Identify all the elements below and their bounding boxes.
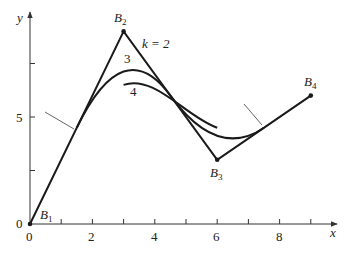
control-point-b2 xyxy=(121,29,126,34)
label-k2: k = 2 xyxy=(142,36,170,51)
x-axis-label: x xyxy=(329,225,336,240)
control-point-b3 xyxy=(215,158,220,163)
curve-k3 xyxy=(77,70,264,138)
b-spline-diagram: 0 2 4 6 8 0 5 x y B1 B2 B3 B4 k = 2 3 4 xyxy=(0,0,355,253)
label-b2: B2 xyxy=(114,10,126,27)
control-point-b4 xyxy=(309,93,314,98)
y-axis-label: y xyxy=(15,10,23,25)
label-b3: B3 xyxy=(210,165,223,182)
curve-k4 xyxy=(124,83,218,128)
label-b1: B1 xyxy=(40,207,52,224)
y-tick-label-5: 5 xyxy=(16,110,23,125)
pointer-line-right xyxy=(244,104,262,125)
x-tick-label-8: 8 xyxy=(276,229,283,244)
control-point-b1 xyxy=(28,222,33,227)
y-ticks xyxy=(30,64,35,171)
label-b4: B4 xyxy=(304,74,317,91)
y-tick-label-0: 0 xyxy=(16,216,23,231)
label-k4: 4 xyxy=(130,84,137,99)
pointer-line-left xyxy=(45,112,74,129)
x-tick-label-0: 0 xyxy=(26,229,33,244)
label-k3: 3 xyxy=(124,51,131,66)
x-tick-label-2: 2 xyxy=(88,229,95,244)
x-ticks xyxy=(61,219,311,224)
x-tick-label-6: 6 xyxy=(213,229,220,244)
x-tick-label-4: 4 xyxy=(151,229,158,244)
